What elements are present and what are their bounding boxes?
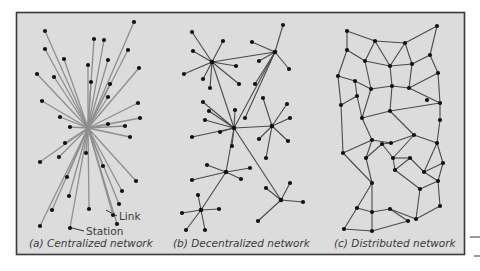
station-node [207, 109, 211, 113]
station-node [218, 130, 222, 134]
station-node [243, 116, 247, 120]
station-node [410, 62, 414, 66]
caption-centralized: (a) Centralized network [29, 237, 154, 249]
station-node [106, 122, 110, 126]
station-node [190, 135, 194, 139]
station-node [63, 141, 67, 145]
station-node [134, 179, 138, 183]
station-node [224, 170, 229, 175]
station-node [406, 219, 410, 223]
station-node [341, 151, 345, 155]
station-node [363, 59, 367, 63]
station-node [288, 181, 292, 185]
station-node [184, 228, 188, 232]
station-node [108, 82, 112, 86]
station-node [388, 109, 392, 113]
station-node [233, 108, 237, 112]
station-node [201, 100, 205, 104]
station-node [438, 118, 442, 122]
station-node [87, 207, 91, 211]
station-node [40, 99, 44, 103]
station-node [239, 177, 243, 181]
station-node [342, 227, 346, 231]
station-node [221, 39, 225, 43]
station-node [196, 193, 200, 197]
station-node [288, 116, 292, 120]
station-node [364, 156, 368, 160]
station-node [436, 71, 440, 75]
station-node [38, 160, 42, 164]
station-node [345, 29, 349, 33]
station-node [273, 50, 278, 55]
station-node [414, 217, 418, 221]
station-node [428, 53, 432, 57]
station-node [201, 77, 205, 81]
station-node [438, 101, 442, 105]
station-node [287, 67, 291, 71]
station-node [422, 170, 426, 174]
station-node [279, 198, 284, 203]
station-node [210, 60, 215, 65]
station-node [257, 59, 261, 63]
station-node [370, 229, 374, 233]
station-node [62, 57, 66, 61]
station-node [407, 86, 411, 90]
station-node [360, 116, 364, 120]
station-node [136, 101, 140, 105]
station-node [65, 175, 69, 179]
station-node [435, 141, 439, 145]
station-node [102, 38, 106, 42]
station-node [208, 86, 212, 90]
station-node [412, 133, 416, 137]
caption-decentralized: (b) Decentralized network [173, 237, 311, 249]
station-node [370, 210, 374, 214]
station-node [199, 208, 204, 213]
station-node [84, 151, 88, 155]
station-node [373, 39, 377, 43]
link-label: Link [119, 210, 141, 222]
network-topologies-diagram: Link Station (a) Centralized network (b)… [0, 0, 480, 271]
station-node [353, 79, 357, 83]
station-node [388, 207, 392, 211]
station-node [257, 137, 261, 141]
station-node [339, 103, 343, 107]
station-node [438, 204, 442, 208]
station-node [217, 207, 221, 211]
station-node [403, 41, 407, 45]
station-node [137, 66, 141, 70]
station-node [106, 58, 110, 62]
station-node [57, 155, 61, 159]
station-node [38, 224, 42, 228]
station-node [418, 187, 422, 191]
station-node [52, 75, 56, 79]
station-node [345, 48, 349, 52]
station-node [370, 138, 374, 142]
station-node [92, 37, 96, 41]
station-node [355, 206, 359, 210]
station-node [286, 139, 290, 143]
station-node [237, 82, 241, 86]
station-node [106, 95, 110, 99]
station-node [232, 126, 237, 131]
station-node [285, 102, 289, 106]
station-node [369, 87, 373, 91]
station-node [190, 30, 194, 34]
station-node [89, 80, 93, 84]
station-node [234, 64, 238, 68]
station-node [138, 116, 142, 120]
station-node [50, 208, 54, 212]
station-node [123, 124, 127, 128]
station-node [390, 84, 394, 88]
station-node [58, 115, 62, 119]
station-node [391, 156, 395, 160]
station-node [86, 63, 90, 67]
station-node [180, 211, 184, 215]
station-node [132, 20, 136, 24]
station-node [250, 40, 254, 44]
station-node [408, 156, 412, 160]
diagram-frame [17, 13, 465, 255]
station-node [380, 142, 384, 146]
station-node [388, 64, 392, 68]
station-node [301, 200, 305, 204]
station-node [425, 98, 429, 102]
